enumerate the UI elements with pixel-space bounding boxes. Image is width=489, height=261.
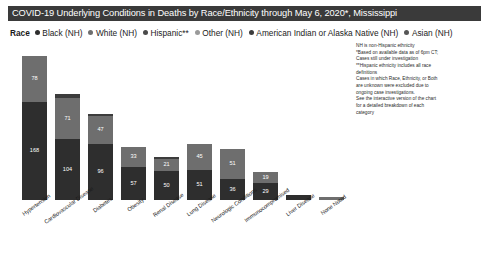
bar-column[interactable]: 3357 bbox=[117, 48, 150, 200]
legend-swatch-icon bbox=[195, 30, 200, 35]
bar-stack: 2150 bbox=[154, 157, 180, 200]
x-axis-tick-label: Obesity bbox=[126, 197, 145, 213]
bar-segment[interactable]: 78 bbox=[22, 56, 48, 102]
bar-column[interactable]: 4551 bbox=[183, 48, 216, 200]
bar-stack: 3357 bbox=[121, 147, 147, 200]
footnote-line: *Based on available data as of 6pm CT; bbox=[356, 50, 484, 57]
chart-page: COVID-19 Underlying Conditions in Deaths… bbox=[0, 0, 489, 261]
legend-item-black-nh[interactable]: Black (NH) bbox=[35, 28, 83, 38]
x-label-cell: Diabetes bbox=[84, 200, 117, 258]
legend-label: White (NH) bbox=[96, 28, 137, 38]
bar-segment[interactable]: 104 bbox=[55, 139, 81, 200]
chart-legend: Race Black (NH) White (NH) Hispanic** Ot… bbox=[10, 26, 485, 39]
legend-swatch-icon bbox=[35, 30, 40, 35]
bar-stack: 5136 bbox=[220, 149, 246, 200]
bar-value-label: 51 bbox=[229, 161, 235, 167]
bar-value-label: 47 bbox=[97, 127, 103, 133]
footnote-line: Cases in which Race, Ethnicity, or Both bbox=[356, 76, 484, 83]
x-axis-labels: HypertensionCardiovascular DiseaseDiabet… bbox=[18, 200, 348, 258]
legend-swatch-icon bbox=[404, 30, 409, 35]
plot-area: 7816871104479633572150455151361929 bbox=[18, 48, 348, 200]
legend-item-asian-nh[interactable]: Asian (NH) bbox=[404, 28, 452, 38]
bar-stack: 78168 bbox=[22, 56, 48, 200]
bar-column[interactable]: 2150 bbox=[150, 48, 183, 200]
bar-value-label: 21 bbox=[163, 162, 169, 168]
x-label-cell: Liver Disease bbox=[282, 200, 315, 258]
footnote-line: NH is non-Hispanic ethnicity bbox=[356, 43, 484, 50]
bar-segment[interactable]: 168 bbox=[22, 102, 48, 200]
x-label-cell: Neurologic Conditions bbox=[216, 200, 249, 258]
bar-column[interactable]: 78168 bbox=[18, 48, 51, 200]
legend-swatch-icon bbox=[88, 30, 93, 35]
bar-value-label: 33 bbox=[130, 154, 136, 160]
footnote-line: definitions bbox=[356, 70, 484, 77]
bar-value-label: 29 bbox=[262, 189, 268, 195]
legend-swatch-icon bbox=[249, 30, 254, 35]
x-label-cell: Obesity bbox=[117, 200, 150, 258]
legend-swatch-icon bbox=[143, 30, 148, 35]
legend-label: Other (NH) bbox=[202, 28, 243, 38]
footnote-line: for a detailed breakdown of each bbox=[356, 103, 484, 110]
bar-group: 7816871104479633572150455151361929 bbox=[18, 48, 348, 200]
bar-value-label: 50 bbox=[163, 183, 169, 189]
x-label-cell: Renal Disease bbox=[150, 200, 183, 258]
chart-title: COVID-19 Underlying Conditions in Deaths… bbox=[8, 6, 481, 21]
bar-segment[interactable]: 51 bbox=[220, 149, 246, 179]
bar-segment[interactable]: 19 bbox=[253, 172, 279, 183]
legend-item-aian-nh[interactable]: American Indian or Alaska Native (NH) bbox=[249, 28, 399, 38]
bar-value-label: 45 bbox=[196, 154, 202, 160]
bar-segment[interactable]: 57 bbox=[121, 167, 147, 200]
bar-column[interactable] bbox=[282, 48, 315, 200]
bar-stack: 71104 bbox=[55, 94, 81, 200]
x-label-cell: Immunocompromised bbox=[249, 200, 282, 258]
bar-value-label: 96 bbox=[97, 169, 103, 175]
legend-label: Asian (NH) bbox=[412, 28, 453, 38]
bar-segment[interactable]: 45 bbox=[187, 144, 213, 170]
footnote-line: are unknown were excluded due to bbox=[356, 83, 484, 90]
x-label-cell: None Noted bbox=[315, 200, 348, 258]
bar-column[interactable]: 4796 bbox=[84, 48, 117, 200]
bar-stack: 4551 bbox=[187, 144, 213, 200]
x-label-cell: Hypertension bbox=[18, 200, 51, 258]
legend-label: Black (NH) bbox=[42, 28, 82, 38]
bar-value-label: 71 bbox=[64, 116, 70, 122]
footnote-line: See the interactive version of the chart bbox=[356, 96, 484, 103]
legend-label: Hispanic** bbox=[150, 28, 188, 38]
legend-item-hispanic[interactable]: Hispanic** bbox=[143, 28, 189, 38]
x-label-cell: Cardiovascular Disease bbox=[51, 200, 84, 258]
footnote-line: category bbox=[356, 110, 484, 117]
bar-value-label: 104 bbox=[63, 167, 72, 173]
legend-item-white-nh[interactable]: White (NH) bbox=[88, 28, 137, 38]
bar-column[interactable]: 1929 bbox=[249, 48, 282, 200]
bar-value-label: 51 bbox=[196, 182, 202, 188]
footnote-line: Cases still under investigation bbox=[356, 56, 484, 63]
x-label-cell: Lung Disease bbox=[183, 200, 216, 258]
bar-value-label: 36 bbox=[229, 187, 235, 193]
footnote-line: ongoing case investigations. bbox=[356, 90, 484, 97]
bar-value-label: 19 bbox=[262, 175, 268, 181]
bar-value-label: 168 bbox=[30, 148, 39, 154]
bar-segment[interactable]: 71 bbox=[55, 98, 81, 140]
bar-segment[interactable]: 33 bbox=[121, 147, 147, 166]
bar-column[interactable]: 5136 bbox=[216, 48, 249, 200]
bar-segment[interactable]: 21 bbox=[154, 159, 180, 171]
bar-segment[interactable]: 47 bbox=[88, 116, 114, 143]
bar-value-label: 57 bbox=[130, 181, 136, 187]
bar-column[interactable] bbox=[315, 48, 348, 200]
legend-label: American Indian or Alaska Native (NH) bbox=[256, 28, 398, 38]
legend-item-other-nh[interactable]: Other (NH) bbox=[195, 28, 243, 38]
legend-title: Race bbox=[10, 28, 30, 38]
chart-footnotes: NH is non-Hispanic ethnicity*Based on av… bbox=[356, 43, 484, 116]
bar-column[interactable]: 71104 bbox=[51, 48, 84, 200]
footnote-line: **Hispanic ethnicity includes all race bbox=[356, 63, 484, 70]
bar-value-label: 78 bbox=[31, 76, 37, 82]
